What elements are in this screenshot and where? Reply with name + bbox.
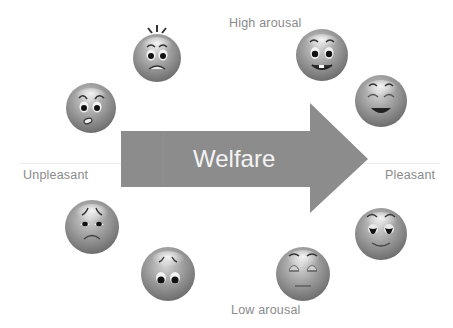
excited-face-icon — [293, 26, 351, 84]
laughing-face-icon — [352, 72, 410, 130]
content-face-icon — [352, 205, 410, 263]
welfare-arrow-label: Welfare — [193, 147, 275, 171]
depressed-face-icon — [138, 244, 198, 304]
relaxed-face-icon — [273, 244, 333, 304]
afraid-face-icon — [127, 20, 187, 90]
sad-face-icon — [62, 197, 122, 257]
welfare-circumplex-diagram: High arousal Low arousal Unpleasant Plea… — [0, 0, 453, 328]
worried-face-icon — [63, 80, 119, 136]
